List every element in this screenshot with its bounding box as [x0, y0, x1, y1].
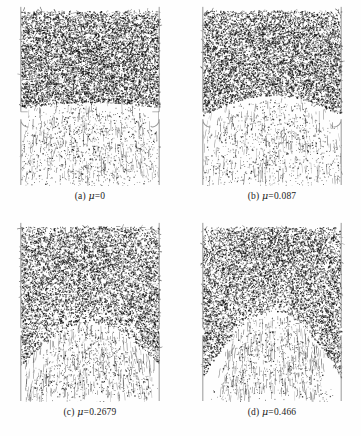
panel-d-caption: (d) μ=0.466: [196, 406, 348, 417]
panel-b-plot: [196, 6, 348, 186]
panel-c-caption: (c) μ=0.2679: [14, 406, 166, 417]
caption-mu-value: =0.087: [268, 191, 296, 201]
caption-label: (b): [248, 191, 262, 201]
caption-mu-value: =0: [95, 191, 106, 201]
panel-a-caption: (a) μ=0: [14, 190, 166, 201]
figure-granular-flow-panels: (a) μ=0 (b) μ=0.087 (c) μ=0.2679 (d) μ=0…: [0, 0, 361, 436]
panel-b-caption: (b) μ=0.087: [196, 190, 348, 201]
panel-d: (d) μ=0.466: [196, 222, 348, 422]
caption-label: (c): [64, 407, 78, 417]
panel-c: (c) μ=0.2679: [14, 222, 166, 422]
caption-label: (d): [248, 407, 262, 417]
panel-a: (a) μ=0: [14, 6, 166, 206]
panel-b: (b) μ=0.087: [196, 6, 348, 206]
caption-label: (a): [75, 191, 89, 201]
caption-mu-value: =0.466: [268, 407, 296, 417]
panel-d-plot: [196, 222, 348, 402]
panel-c-plot: [14, 222, 166, 402]
caption-mu-value: =0.2679: [84, 407, 117, 417]
panel-a-plot: [14, 6, 166, 186]
